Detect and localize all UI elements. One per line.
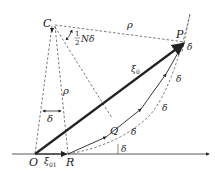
angle-half-N-delta-arc xyxy=(66,30,72,40)
label-half-denominator: 2 xyxy=(75,39,79,47)
label-N-delta: Nδ xyxy=(80,34,94,44)
polygon-arc-diagram: C P Q O R ρ ρ 1 2 Nδ δ δ δ δ δ δ ξ 0 ξ 0… xyxy=(0,0,215,171)
label-delta-angle-left: δ xyxy=(47,113,53,124)
label-delta-seg2: δ xyxy=(162,103,167,113)
label-R: R xyxy=(65,156,74,169)
chord-O-to-P xyxy=(35,44,183,154)
label-delta-seg3: δ xyxy=(176,74,181,84)
label-delta-seg1: δ xyxy=(131,127,136,137)
label-delta-seg4: δ xyxy=(187,42,192,52)
label-C: C xyxy=(43,17,52,30)
label-P: P xyxy=(175,28,184,41)
segment-4 xyxy=(166,44,183,74)
label-xi01-sub: 01 xyxy=(49,161,57,168)
label-half-numerator: 1 xyxy=(75,30,79,38)
label-O: O xyxy=(29,156,38,169)
label-delta-base: δ xyxy=(121,144,126,154)
dashed-C-to-O xyxy=(35,26,52,154)
label-rho-left: ρ xyxy=(62,85,69,96)
label-rho-top: ρ xyxy=(126,19,133,30)
diagram-canvas: C P Q O R ρ ρ 1 2 Nδ δ δ δ δ δ δ ξ 0 ξ 0… xyxy=(0,0,215,171)
label-xi0-sub: 0 xyxy=(136,68,140,75)
label-Q: Q xyxy=(110,125,118,136)
